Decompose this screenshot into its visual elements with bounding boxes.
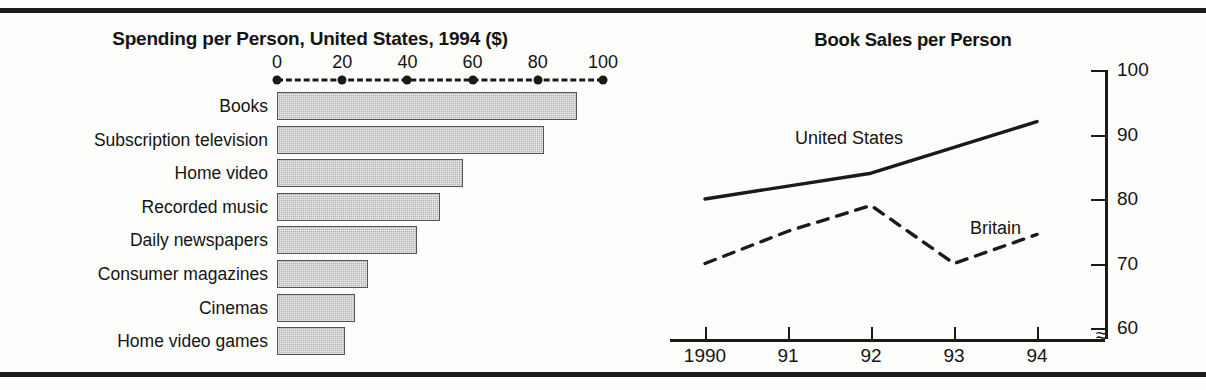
x-axis-tick-dot xyxy=(403,76,412,85)
bar-rect xyxy=(277,327,345,355)
bar-category-label: Home video games xyxy=(117,331,268,352)
bar-row: Recorded music xyxy=(277,193,440,221)
bar-chart-plot: 020406080100BooksSubscription television… xyxy=(0,13,620,370)
bar-category-label: Recorded music xyxy=(142,196,268,217)
x-axis-tick-dot xyxy=(533,76,542,85)
x-axis-tick-dot xyxy=(599,76,608,85)
bar-rect xyxy=(277,126,544,154)
bar-row: Subscription television xyxy=(277,126,544,154)
bar-row: Daily newspapers xyxy=(277,226,417,254)
bar-row: Home video games xyxy=(277,327,345,355)
bar-rect xyxy=(277,226,417,254)
bar-row: Cinemas xyxy=(277,294,355,322)
x-axis-tick-dot xyxy=(338,76,347,85)
bar-row: Consumer magazines xyxy=(277,260,368,288)
bar-rect xyxy=(277,193,440,221)
bar-category-label: Consumer magazines xyxy=(98,264,268,285)
x-axis-tick-dot xyxy=(273,76,282,85)
x-axis-tick-label: 20 xyxy=(332,52,352,73)
bar-row: Home video xyxy=(277,159,463,187)
x-axis-dashed-line xyxy=(277,79,603,82)
bottom-rule xyxy=(0,372,1206,377)
series-label-britain: Britain xyxy=(970,218,1021,239)
bar-row: Books xyxy=(277,92,577,120)
bar-category-label: Subscription television xyxy=(94,129,268,150)
bar-rect xyxy=(277,159,463,187)
x-axis-tick-dot xyxy=(468,76,477,85)
panel-book-sales-per-person: Book Sales per Person 199091929394607080… xyxy=(620,13,1206,370)
x-axis-tick-label: 60 xyxy=(463,52,483,73)
x-axis-tick-label: 100 xyxy=(588,52,618,73)
bar-rect xyxy=(277,260,368,288)
bar-category-label: Home video xyxy=(175,163,268,184)
bar-category-label: Books xyxy=(219,96,268,117)
x-axis-tick-label: 80 xyxy=(528,52,548,73)
line-chart-plot: 19909192939460708090100≈United StatesBri… xyxy=(620,13,1206,370)
bar-rect xyxy=(277,92,577,120)
bar-category-label: Daily newspapers xyxy=(130,230,268,251)
x-axis-tick-label: 0 xyxy=(272,52,282,73)
series-lines xyxy=(620,13,1206,370)
figure-container: Spending per Person, United States, 1994… xyxy=(0,0,1206,390)
x-axis-tick-label: 40 xyxy=(397,52,417,73)
series-label-united-states: United States xyxy=(795,128,903,149)
bar-category-label: Cinemas xyxy=(199,297,268,318)
panel-spending-per-person: Spending per Person, United States, 1994… xyxy=(0,13,620,370)
bar-rect xyxy=(277,294,355,322)
